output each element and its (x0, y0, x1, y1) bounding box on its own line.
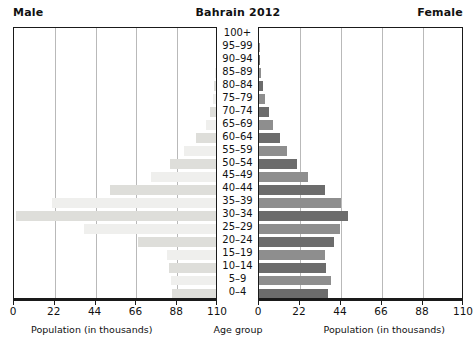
bar-25–29 (259, 224, 340, 234)
bar-row (259, 183, 462, 196)
bar-row (259, 248, 462, 261)
female-axis-line (258, 299, 463, 301)
axis-tick-label-110: 110 (207, 305, 227, 317)
female-legend-label: Female (417, 6, 463, 19)
bar-row (14, 106, 216, 119)
age-group-label-90–94: 90–94 (217, 53, 258, 66)
axis-tick-label-88: 88 (170, 305, 183, 317)
age-group-label-95–99: 95–99 (217, 40, 258, 53)
bar-45–49 (259, 172, 308, 182)
bar-row (14, 248, 216, 261)
chart-header: Male Bahrain 2012 Female (0, 6, 476, 22)
bar-65–69 (259, 120, 273, 130)
bar-row (259, 274, 462, 287)
age-group-label-0–4: 0–4 (217, 286, 258, 299)
axis-tick-label-44: 44 (333, 305, 346, 317)
age-group-label-15–19: 15–19 (217, 247, 258, 260)
bar-row (259, 54, 462, 67)
bar-row (259, 67, 462, 80)
age-group-label-75–79: 75–79 (217, 92, 258, 105)
bar-row (259, 80, 462, 93)
bar-45–49 (151, 172, 216, 182)
bar-row (14, 132, 216, 145)
bar-0–4 (259, 289, 328, 299)
bar-row (259, 28, 462, 41)
bar-row (259, 145, 462, 158)
bar-60–64 (196, 133, 216, 143)
age-group-label-55–59: 55–59 (217, 144, 258, 157)
bar-row (14, 41, 216, 54)
chart-title: Bahrain 2012 (0, 6, 476, 19)
bar-row (259, 132, 462, 145)
axis-tick-label-88: 88 (415, 305, 428, 317)
male-bars (14, 28, 216, 298)
bar-50–54 (170, 159, 216, 169)
axis-tick-label-0: 0 (255, 305, 262, 317)
axis-tick-label-22: 22 (47, 305, 60, 317)
male-plot-panel (13, 27, 217, 299)
bar-row (259, 196, 462, 209)
female-plot-panel (258, 27, 463, 299)
bar-row (14, 28, 216, 41)
bar-row (14, 54, 216, 67)
bar-row (14, 67, 216, 80)
age-group-label-40–44: 40–44 (217, 182, 258, 195)
bar-25–29 (84, 224, 216, 234)
bar-40–44 (259, 185, 325, 195)
bar-row (259, 93, 462, 106)
bar-5–9 (259, 276, 331, 286)
age-group-axis: 100+95–9990–9485–8980–8475–7970–7465–696… (217, 27, 258, 299)
bar-row (259, 158, 462, 171)
bar-row (259, 287, 462, 299)
bar-75–79 (213, 94, 216, 104)
bar-35–39 (52, 198, 216, 208)
age-group-label-80–84: 80–84 (217, 79, 258, 92)
bar-70–74 (259, 107, 269, 117)
age-group-label-45–49: 45–49 (217, 169, 258, 182)
bar-70–74 (210, 107, 216, 117)
bar-80–84 (259, 81, 263, 91)
bar-20–24 (259, 237, 334, 247)
bar-85–89 (215, 68, 216, 78)
age-group-label-100+: 100+ (217, 27, 258, 40)
bar-row (14, 196, 216, 209)
bar-65–69 (206, 120, 216, 130)
bar-35–39 (259, 198, 341, 208)
bar-85–89 (259, 68, 261, 78)
age-group-label-50–54: 50–54 (217, 157, 258, 170)
axis-tick-label-66: 66 (129, 305, 142, 317)
bar-row (259, 222, 462, 235)
axis-tick-label-66: 66 (374, 305, 387, 317)
axis-tick-label-22: 22 (292, 305, 305, 317)
bar-row (259, 119, 462, 132)
bar-30–34 (259, 211, 348, 221)
bar-10–14 (259, 263, 326, 273)
bar-row (14, 80, 216, 93)
bar-5–9 (171, 276, 216, 286)
age-group-label-20–24: 20–24 (217, 234, 258, 247)
male-axis-line (13, 299, 217, 301)
bar-row (14, 235, 216, 248)
bar-55–59 (259, 146, 287, 156)
female-bars (259, 28, 462, 298)
age-group-label-25–29: 25–29 (217, 221, 258, 234)
age-group-label-70–74: 70–74 (217, 105, 258, 118)
age-group-label-10–14: 10–14 (217, 260, 258, 273)
bar-80–84 (214, 81, 216, 91)
bar-90–94 (259, 55, 260, 65)
bar-30–34 (16, 211, 216, 221)
bar-row (259, 170, 462, 183)
axis-tick-label-0: 0 (10, 305, 17, 317)
bar-row (14, 222, 216, 235)
bar-row (14, 158, 216, 171)
bar-20–24 (138, 237, 216, 247)
male-x-axis: 110886644220 (13, 299, 217, 305)
bar-row (259, 106, 462, 119)
bar-row (14, 93, 216, 106)
axis-tick-label-44: 44 (88, 305, 101, 317)
age-group-label-35–39: 35–39 (217, 195, 258, 208)
age-group-label-65–69: 65–69 (217, 118, 258, 131)
bar-row (14, 287, 216, 299)
bar-row (14, 119, 216, 132)
axis-tick-label-110: 110 (453, 305, 473, 317)
